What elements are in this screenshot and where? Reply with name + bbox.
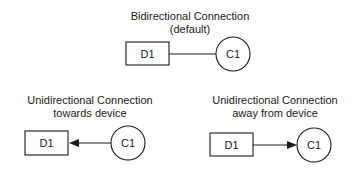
connector-circle: C1 (111, 126, 145, 160)
connector-circle: C1 (216, 37, 250, 71)
connector-label: C1 (226, 48, 240, 60)
connector-label: C1 (307, 139, 321, 151)
panel-bidirectional: Bidirectional Connection (default) D1 C1 (126, 10, 250, 71)
device-box: D1 (25, 131, 68, 155)
device-label: D1 (140, 48, 154, 60)
panel-towards-device: Unidirectional Connection towards device… (25, 94, 153, 160)
panel-title-line1: Unidirectional Connection (212, 94, 337, 106)
panel-title-line2: away from device (232, 107, 318, 119)
device-label: D1 (224, 139, 238, 151)
connector-circle: C1 (297, 128, 331, 162)
panel-away-from-device: Unidirectional Connection away from devi… (210, 94, 338, 162)
device-label: D1 (39, 137, 53, 149)
panel-title-line2: towards device (53, 107, 126, 119)
panel-title-line2: (default) (170, 23, 210, 35)
arrow-right-icon (287, 141, 297, 149)
arrow-left-icon (69, 139, 79, 147)
connection-diagram: Bidirectional Connection (default) D1 C1… (0, 0, 359, 171)
panel-title-line1: Unidirectional Connection (27, 94, 152, 106)
device-box: D1 (210, 133, 253, 156)
device-box: D1 (126, 42, 169, 65)
connector-label: C1 (121, 137, 135, 149)
panel-title-line1: Bidirectional Connection (131, 10, 250, 22)
